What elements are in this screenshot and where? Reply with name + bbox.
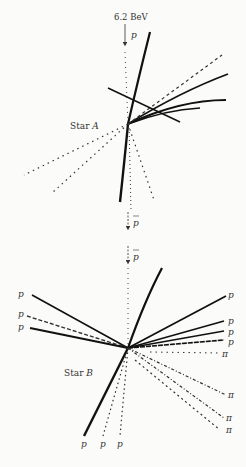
star-b-right-label: π (227, 390, 235, 400)
star-a-tracks (24, 32, 228, 210)
star-b-left-label: p (18, 289, 24, 299)
beam-particle-label: p (131, 30, 137, 40)
star-b-tracks (27, 268, 226, 436)
star-b-left-label: p (18, 322, 24, 332)
star-b-right-label: p (228, 316, 234, 326)
star-b-bottom-label: p (81, 439, 87, 449)
star-b-bottom-label: p (100, 439, 106, 449)
beam-energy-label: 6.2 BeV (114, 12, 148, 22)
star-b-right-label: p (228, 327, 234, 337)
antiproton-label-lower: p (133, 252, 139, 262)
star-b-left-label: p (18, 309, 24, 319)
star-b-right-label: π (225, 425, 233, 435)
star-b-right-label: π (225, 413, 233, 423)
particle-tracks-figure: 6.2 BeV p Star A p p (0, 0, 246, 467)
star-a-label: Star A (70, 121, 99, 131)
antiproton-label-upper: p (133, 218, 139, 228)
star-b-bottom-label: p (117, 439, 123, 449)
star-b-right-label: p (228, 337, 234, 347)
star-b-label: Star B (64, 368, 93, 378)
star-b-right-label: π (221, 349, 229, 359)
star-b-right-label: p (228, 290, 234, 300)
incoming-beam-track (125, 52, 128, 124)
